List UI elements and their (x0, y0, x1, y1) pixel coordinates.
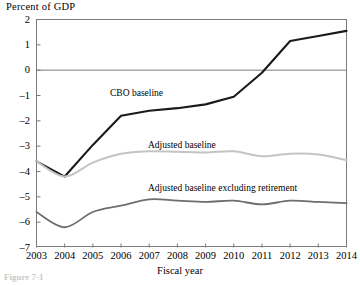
x-tick-label: 2010 (223, 250, 244, 261)
x-tick-label: 2003 (26, 250, 47, 261)
x-tick-label: 2014 (336, 250, 357, 261)
y-tick-label: –4 (4, 166, 30, 177)
figure-container: Percent of GDP 210–1–2–3–4–5–6–7 2003200… (0, 0, 360, 285)
y-tick-label: 2 (4, 14, 30, 25)
series-label-cbo-baseline: CBO baseline (110, 88, 163, 98)
x-tick-label: 2004 (54, 250, 75, 261)
y-axis-title: Percent of GDP (6, 1, 75, 12)
plot-area (36, 19, 347, 247)
x-tick-label: 2006 (111, 250, 132, 261)
x-tick-label: 2009 (195, 250, 216, 261)
y-tick-label: 0 (4, 65, 30, 76)
series-label-adjusted-baseline: Adjusted baseline (148, 140, 216, 150)
x-tick-label: 2005 (82, 250, 103, 261)
figure-caption: Figure 7-1 (4, 272, 124, 284)
x-tick-label: 2012 (280, 250, 301, 261)
y-tick-label: –6 (4, 217, 30, 228)
y-tick-label: 1 (4, 40, 30, 51)
x-tick-label: 2008 (167, 250, 188, 261)
series-label-adjusted-baseline-excluding-retirement: Adjusted baseline excluding retirement (148, 183, 297, 193)
y-tick-label: –5 (4, 192, 30, 203)
x-tick-label: 2011 (252, 250, 273, 261)
x-tick-label: 2007 (139, 250, 160, 261)
x-tick-label: 2013 (308, 250, 329, 261)
y-tick-label: –1 (4, 90, 30, 101)
y-tick-label: –3 (4, 141, 30, 152)
y-tick-label: –2 (4, 116, 30, 127)
